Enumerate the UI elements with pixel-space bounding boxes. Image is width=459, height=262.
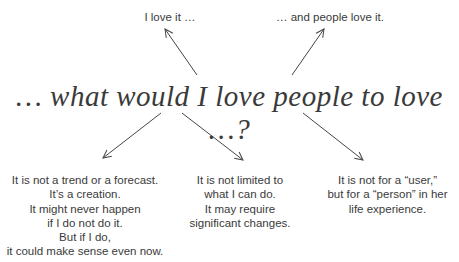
text-line: It might never happen xyxy=(5,202,165,216)
top-left-label: I love it … xyxy=(120,10,220,24)
text-line: It is not limited to xyxy=(180,173,300,187)
bottom-left-block: It is not a trend or a forecast. It’s a … xyxy=(5,173,165,259)
text-line: what I can do. xyxy=(180,187,300,201)
bottom-right-block: It is not for a “user,” but for a “perso… xyxy=(320,173,455,216)
text-line: It’s a creation. xyxy=(5,187,165,201)
text-line: significant changes. xyxy=(180,216,300,230)
arrow-to-top-left xyxy=(165,29,197,75)
central-question: … what would I love people to love …? xyxy=(0,80,459,146)
arrow-to-top-right xyxy=(292,29,324,75)
text-line: it could make sense even now. xyxy=(5,244,165,258)
bottom-middle-block: It is not limited to what I can do. It m… xyxy=(180,173,300,230)
text-line: It may require xyxy=(180,202,300,216)
text-line: if I do not do it. xyxy=(5,216,165,230)
text-line: life experience. xyxy=(320,202,455,216)
text-line: but for a “person” in her xyxy=(320,187,455,201)
text-line: But if I do, xyxy=(5,230,165,244)
text-line: It is not a trend or a forecast. xyxy=(5,173,165,187)
top-right-label: … and people love it. xyxy=(270,10,390,24)
text-line: It is not for a “user,” xyxy=(320,173,455,187)
